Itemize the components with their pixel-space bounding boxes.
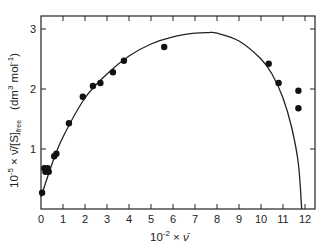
x-tick-label: 11 bbox=[277, 213, 288, 225]
x-tick-label: 1 bbox=[60, 213, 66, 225]
data-point bbox=[275, 80, 281, 86]
data-point bbox=[97, 80, 103, 86]
x-tick-label: 2 bbox=[82, 213, 88, 225]
data-points bbox=[39, 44, 302, 196]
data-point bbox=[121, 58, 127, 64]
data-point bbox=[161, 44, 167, 50]
data-point bbox=[266, 61, 272, 67]
data-point bbox=[295, 105, 301, 111]
data-point bbox=[90, 83, 96, 89]
data-point bbox=[66, 120, 72, 126]
x-axis-ticks: 0123456789101112 bbox=[38, 16, 311, 225]
x-tick-label: 10 bbox=[255, 213, 267, 225]
data-point bbox=[39, 190, 45, 196]
y-axis-title: 10-5 × ν̄/[S]free(dm3 mol-1) bbox=[6, 53, 22, 188]
y-tick-label: 3 bbox=[30, 23, 36, 35]
x-tick-label: 0 bbox=[38, 213, 44, 225]
x-tick-label: 3 bbox=[104, 213, 110, 225]
x-tick-label: 7 bbox=[192, 213, 198, 225]
x-tick-label: 4 bbox=[126, 213, 132, 225]
x-axis-title: 10-2 × ν̄ bbox=[150, 229, 191, 243]
x-tick-label: 6 bbox=[170, 213, 176, 225]
fit-curve bbox=[41, 32, 302, 209]
x-tick-label: 8 bbox=[214, 213, 220, 225]
y-tick-label: 2 bbox=[30, 83, 36, 95]
x-tick-label: 5 bbox=[148, 213, 154, 225]
x-tick-label: 9 bbox=[236, 213, 242, 225]
y-axis-ticks: 123 bbox=[30, 23, 315, 155]
data-point bbox=[80, 94, 86, 100]
y-tick-label: 1 bbox=[30, 143, 36, 155]
x-tick-label: 12 bbox=[299, 213, 311, 225]
data-point bbox=[295, 88, 301, 94]
data-point bbox=[110, 69, 116, 75]
data-point bbox=[46, 169, 52, 175]
data-point bbox=[53, 151, 59, 157]
plot-frame bbox=[41, 16, 315, 209]
chart: 0123456789101112 123 10-2 × ν̄ 10-5 × ν̄… bbox=[0, 0, 326, 250]
